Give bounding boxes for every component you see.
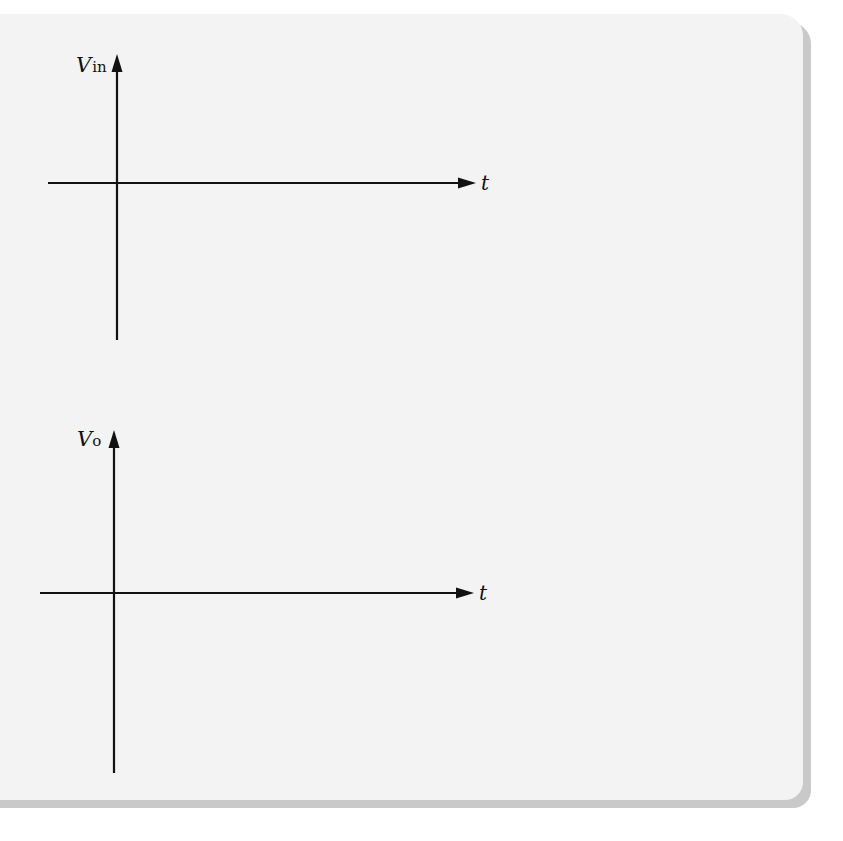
vin-plot: Vin t [48,53,490,340]
vo-y-arrow-icon [109,430,120,448]
svg-text:Vin: Vin [76,53,107,77]
vin-label: V [76,53,93,77]
vo-plot: Vo t [40,427,488,773]
vo-t-label: t [479,581,488,605]
svg-text:Vo: Vo [77,427,101,451]
axes-diagram: Vin t Vo t [0,0,843,841]
vin-label-subscript: in [92,58,107,76]
vin-y-arrow-icon [112,54,123,72]
vo-x-arrow-icon [456,588,474,599]
vin-x-arrow-icon [458,178,476,189]
vo-label-subscript: o [92,432,101,450]
vin-t-label: t [481,171,490,195]
